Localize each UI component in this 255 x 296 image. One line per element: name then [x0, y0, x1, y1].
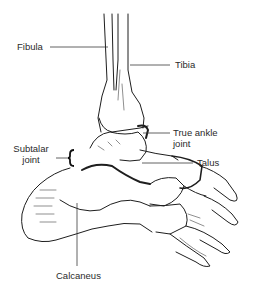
label-true-ankle-joint-line2: joint: [173, 138, 218, 149]
label-fibula: Fibula: [17, 41, 43, 52]
label-true-ankle-joint-line1: True ankle: [173, 127, 218, 138]
label-subtalar-joint-line1: Subtalar: [10, 143, 52, 154]
subtalar-joint-line: [82, 165, 150, 184]
ankle-anatomy-diagram: Fibula Tibia True ankle joint Subtalar j…: [0, 0, 255, 296]
label-calcaneus: Calcaneus: [56, 270, 101, 281]
label-tibia: Tibia: [175, 59, 195, 70]
talus-bone: [90, 132, 178, 161]
label-talus: Talus: [197, 157, 219, 168]
fibula-bone: [98, 14, 114, 132]
label-true-ankle-joint: True ankle joint: [173, 127, 218, 149]
subtalar-joint-brace-icon: [68, 150, 74, 166]
metatarsal-bones: [170, 166, 238, 267]
label-subtalar-joint: Subtalar joint: [10, 143, 52, 165]
label-subtalar-joint-line2: joint: [10, 154, 52, 165]
